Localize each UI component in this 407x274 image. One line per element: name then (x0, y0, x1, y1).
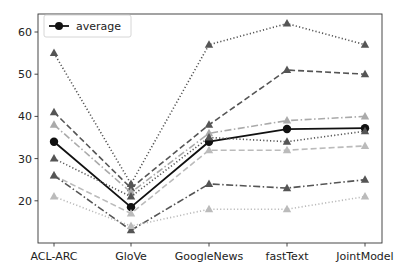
circle-marker-icon (50, 138, 58, 146)
legend-label: average (76, 20, 121, 33)
y-tick-label: 60 (18, 26, 32, 39)
legend: average (44, 15, 131, 37)
y-tick-label: 20 (18, 195, 32, 208)
x-tick-label: fastText (266, 250, 310, 263)
y-tick-label: 50 (18, 68, 32, 81)
x-tick-label: GloVe (115, 250, 147, 263)
x-tick-label: GoogleNews (175, 250, 244, 263)
y-tick-label: 40 (18, 110, 32, 123)
legend-circle-marker-icon (55, 22, 63, 30)
line-chart: 2030405060ACL-ARCGloVeGoogleNewsfastText… (0, 0, 407, 274)
y-tick-label: 30 (18, 153, 32, 166)
x-tick-label: ACL-ARC (31, 250, 78, 263)
circle-marker-icon (283, 125, 291, 133)
x-tick-label: JointModel (335, 250, 393, 263)
